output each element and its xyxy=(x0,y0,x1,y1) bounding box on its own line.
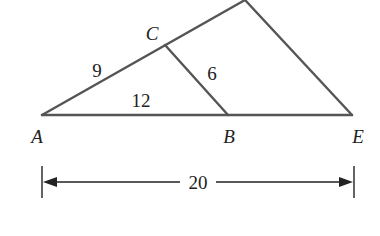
length-label-ab: 12 xyxy=(132,90,151,111)
length-label-ac: 9 xyxy=(92,60,102,81)
arrow-left-icon xyxy=(43,177,57,187)
length-label-cb: 6 xyxy=(207,63,217,84)
segment-DE xyxy=(245,0,352,115)
point-label-e: E xyxy=(351,126,364,147)
dimension-label: 20 xyxy=(189,172,208,193)
point-label-c: C xyxy=(146,23,159,44)
diagram-canvas: C A B E 9 12 6 20 xyxy=(0,0,380,236)
geometry-diagram: C A B E 9 12 6 20 xyxy=(0,0,380,236)
dimension-line-ae: 20 xyxy=(42,166,354,198)
point-label-a: A xyxy=(29,126,43,147)
arrow-right-icon xyxy=(339,177,353,187)
point-label-b: B xyxy=(223,126,235,147)
segment-CB xyxy=(165,45,228,115)
